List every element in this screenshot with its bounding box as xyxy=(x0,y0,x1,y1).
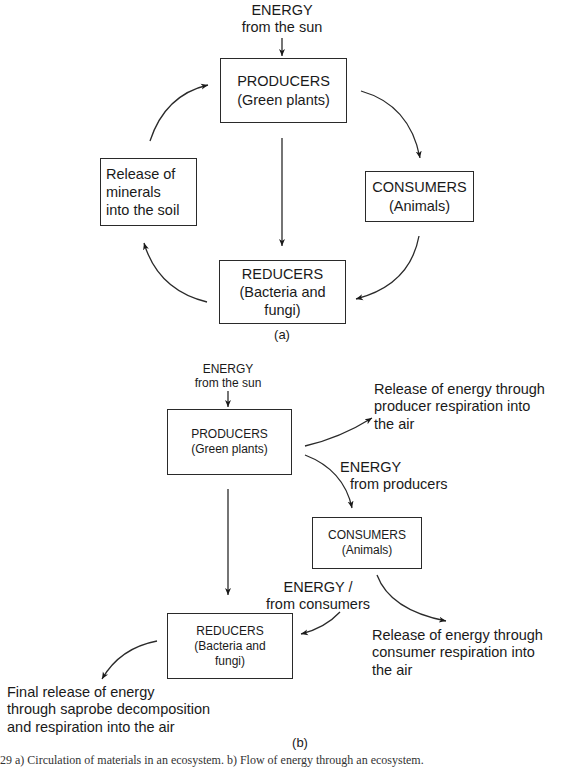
a-reducers-subtitle-1: (Bacteria and xyxy=(239,283,325,301)
b-reducers-box: REDUCERS (Bacteria and fungi) xyxy=(167,613,293,679)
b-energy-input-label: ENERGY from the sun xyxy=(183,362,273,391)
b-producer-release-3: the air xyxy=(374,416,545,433)
b-producers-subtitle: (Green plants) xyxy=(191,442,268,457)
b-consumers-title: CONSUMERS xyxy=(328,528,406,543)
b-energy-from-producers-label: ENERGY from producers xyxy=(340,459,448,494)
b-reducers-subtitle-1: (Bacteria and xyxy=(194,639,265,654)
a-energy-line2: from the sun xyxy=(232,19,332,36)
a-reducers-title: REDUCERS xyxy=(242,265,323,283)
b-final-release-3: and respiration into the air xyxy=(7,719,210,736)
arrow-a-consumers-to-reducers xyxy=(356,236,419,299)
b-efc-2: from consumers xyxy=(258,596,378,613)
b-consumers-subtitle: (Animals) xyxy=(342,543,393,558)
arrow-b-producers-to-air xyxy=(305,418,372,446)
b-producer-release-2: producer respiration into xyxy=(374,398,545,415)
b-final-release-label: Final release of energy through saprobe … xyxy=(7,684,210,736)
a-minerals-line2: minerals xyxy=(106,183,161,201)
b-panel-label: (b) xyxy=(280,735,320,751)
arrow-b-consumers-to-air xyxy=(377,575,446,621)
arrow-a-minerals-to-producers xyxy=(150,85,208,141)
a-reducers-subtitle-2: fungi) xyxy=(264,301,300,319)
b-energy-from-consumers-label: ENERGY / from consumers xyxy=(258,579,378,614)
b-consumer-release-1: Release of energy through xyxy=(372,627,543,644)
b-reducers-title: REDUCERS xyxy=(196,624,263,639)
b-producer-release-label: Release of energy through producer respi… xyxy=(374,381,545,433)
b-producer-release-1: Release of energy through xyxy=(374,381,545,398)
b-energy-line2: from the sun xyxy=(183,376,273,390)
a-producers-box: PRODUCERS (Green plants) xyxy=(220,58,347,123)
arrow-a-reducers-to-minerals xyxy=(144,243,207,302)
b-consumer-release-3: the air xyxy=(372,662,543,679)
b-efp-1: ENERGY xyxy=(340,459,448,476)
b-efp-2: from producers xyxy=(340,476,448,493)
a-energy-input-label: ENERGY from the sun xyxy=(232,2,332,37)
a-minerals-line1: Release of xyxy=(106,165,175,183)
a-consumers-box: CONSUMERS (Animals) xyxy=(365,171,474,222)
b-producers-title: PRODUCERS xyxy=(191,427,268,442)
a-producers-subtitle: (Green plants) xyxy=(237,91,330,109)
b-energy-line1: ENERGY xyxy=(183,362,273,376)
figure-caption: 29 a) Circulation of materials in an eco… xyxy=(0,753,424,768)
b-producers-box: PRODUCERS (Green plants) xyxy=(167,409,292,475)
a-consumers-title: CONSUMERS xyxy=(372,178,466,196)
b-consumer-release-label: Release of energy through consumer respi… xyxy=(372,627,543,679)
arrow-b-reducers-to-final xyxy=(102,641,157,679)
a-minerals-line3: into the soil xyxy=(106,201,179,219)
a-producers-title: PRODUCERS xyxy=(237,72,330,90)
b-final-release-2: through saprobe decomposition xyxy=(7,701,210,718)
a-minerals-box: Release of minerals into the soil xyxy=(100,158,197,226)
a-consumers-subtitle: (Animals) xyxy=(389,197,450,215)
b-efc-1: ENERGY / xyxy=(258,579,378,596)
arrow-b-consumers-to-reducers xyxy=(301,612,340,634)
b-consumers-box: CONSUMERS (Animals) xyxy=(312,517,422,569)
b-reducers-subtitle-2: fungi) xyxy=(215,654,245,669)
a-reducers-box: REDUCERS (Bacteria and fungi) xyxy=(219,260,346,324)
b-consumer-release-2: consumer respiration into xyxy=(372,644,543,661)
b-final-release-1: Final release of energy xyxy=(7,684,210,701)
a-panel-label: (a) xyxy=(262,327,302,343)
arrow-a-producers-to-consumers xyxy=(361,91,420,158)
a-energy-line1: ENERGY xyxy=(232,2,332,19)
